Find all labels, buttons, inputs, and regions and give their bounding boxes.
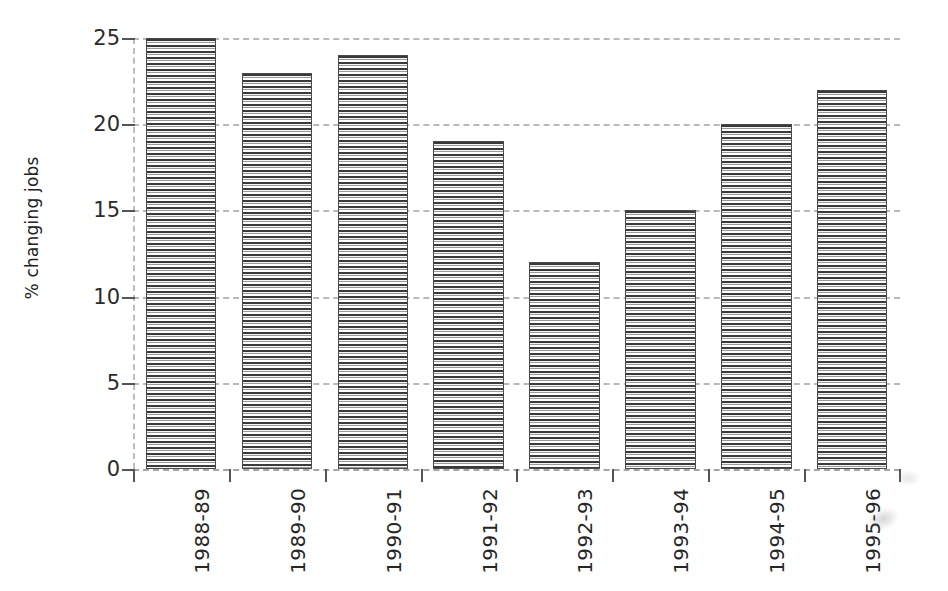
- bar-1992-93: [529, 262, 600, 469]
- y-tick-label-15: 15: [80, 200, 120, 221]
- x-tick-mark-4: [516, 469, 518, 482]
- x-tick-mark-2: [325, 469, 327, 482]
- y-tick-label-0: 0: [80, 459, 120, 480]
- x-tick-label-1990-91: 1990-91: [382, 488, 406, 591]
- bar-1991-92: [433, 141, 504, 469]
- x-tick-label-1995-96: 1995-96: [861, 488, 885, 591]
- x-tick-label-1991-92: 1991-92: [478, 488, 502, 591]
- x-tick-mark-0: [133, 469, 135, 482]
- y-tick-label-20: 20: [80, 114, 120, 135]
- bar-1989-90: [242, 73, 313, 470]
- y-axis-title: % changing jobs: [22, 118, 42, 338]
- bar-1993-94: [625, 210, 696, 469]
- x-tick-mark-3: [421, 469, 423, 482]
- y-tick-label-10: 10: [80, 287, 120, 308]
- bar-1988-89: [146, 38, 217, 469]
- x-tick-mark-6: [708, 469, 710, 482]
- x-tick-label-1988-89: 1988-89: [190, 488, 214, 591]
- y-axis-tick-labels: 25 20 15 10 5 0: [58, 0, 120, 591]
- y-tick-label-25: 25: [80, 28, 120, 49]
- x-tick-label-1993-94: 1993-94: [669, 488, 693, 591]
- x-tick-label-1989-90: 1989-90: [286, 488, 310, 591]
- y-tick-label-5: 5: [80, 373, 120, 394]
- bar-1995-96: [817, 90, 888, 469]
- x-tick-label-1994-95: 1994-95: [765, 488, 789, 591]
- x-tick-mark-1: [229, 469, 231, 482]
- x-tick-mark-7: [804, 469, 806, 482]
- bar-1990-91: [338, 55, 409, 469]
- plot-area: [133, 38, 900, 469]
- x-tick-mark-5: [612, 469, 614, 482]
- bars-group: [133, 38, 900, 469]
- bar-1994-95: [721, 124, 792, 469]
- x-tick-label-1992-93: 1992-93: [573, 488, 597, 591]
- page-smudge-artifact-2: [895, 470, 921, 486]
- bar-chart: % changing jobs 25 20 15 10 5 0: [0, 0, 948, 591]
